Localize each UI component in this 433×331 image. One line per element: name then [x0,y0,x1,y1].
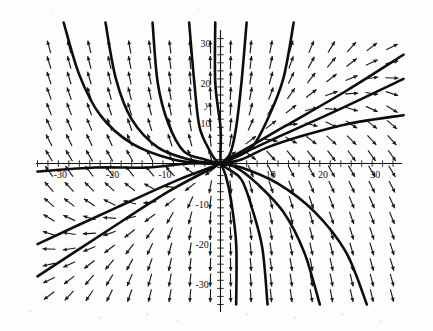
y-tick-label: 20 [201,78,211,89]
y-tick-label: 10 [201,118,211,129]
arrow-head [249,298,253,302]
arrow-head [103,216,107,220]
arrow-head [127,41,131,45]
arrow-head [391,251,395,255]
arrow-head [208,251,212,255]
arrow-head [83,232,87,236]
arrow-head [290,251,294,255]
arrow-head [43,263,47,267]
arrow-head [147,72,151,76]
arrow-head [350,298,354,302]
direction-field-figure: -30-20-10102030302010-10-20-30 y [0,0,433,331]
arrow-head [46,72,50,76]
arrow-head [333,91,337,95]
arrow-head [208,283,212,287]
arrow-head [208,72,212,76]
arrow-head [208,189,212,193]
arrow-head [229,56,233,60]
y-tick-label: 30 [201,38,211,49]
arrow-head [208,298,212,302]
arrow-head [330,220,334,224]
arrow-head [330,298,334,302]
arrow-head [188,236,192,240]
arrow-head [354,91,358,95]
arrow-head [229,40,233,44]
arrow-head [229,220,233,224]
arrow-head [371,235,375,239]
arrow-head [249,87,253,91]
y-axis-name-label: y [204,99,210,110]
arrow-head [208,267,212,271]
arrow-head [229,236,233,240]
x-tick-label: -10 [158,169,171,180]
arrow-head [269,220,273,224]
arrow-head [167,134,171,138]
solution-curve [221,164,367,305]
arrow-head [168,282,172,286]
x-tick-label: 10 [266,169,276,180]
arrow-head [249,282,253,286]
arrow-head [249,267,253,271]
arrow-head [188,298,192,302]
arrow-head [127,72,131,76]
arrow-head [168,103,172,107]
arrow-head [290,235,294,239]
arrow-head [229,72,233,76]
arrow-head [188,118,192,122]
arrow-head [269,41,273,45]
arrow-head [87,41,91,45]
arrow-head [229,298,233,302]
y-tick-label: -20 [196,239,209,250]
arrow-head [350,282,354,286]
y-tick-label: -10 [196,199,209,210]
arrow-head [310,251,314,255]
arrow-head [330,282,334,286]
arrow-head [127,56,131,60]
arrow-head [107,103,111,107]
arrow-head [394,76,398,80]
arrow-head [208,236,212,240]
arrow-head [330,267,334,271]
x-tick-label: 30 [370,169,380,180]
x-tick-label: 20 [318,169,328,180]
arrow-head [168,267,172,271]
x-tick-label: -20 [106,169,119,180]
arrow-head [208,220,212,224]
arrow-head [66,87,70,91]
direction-field-plot: -30-20-10102030302010-10-20-30 y [0,0,433,331]
arrow-head [229,267,233,271]
arrow-head [229,251,233,255]
arrow-head [229,87,233,91]
axes-group [36,30,402,312]
arrow-head [229,134,233,138]
arrow-head [270,56,274,60]
x-tick-label: -30 [54,169,67,180]
arrow-head [229,103,233,107]
solution-curve [221,164,237,305]
arrow-head [208,56,212,60]
arrow-head [43,247,47,251]
arrow-head [270,189,274,193]
y-tick-label: -30 [196,279,209,290]
arrow-head [229,283,233,287]
solution-curve [221,23,247,164]
arrow-head [147,87,151,91]
